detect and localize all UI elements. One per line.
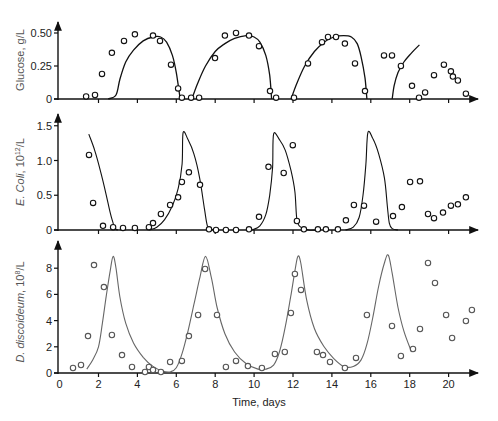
data-point <box>373 219 378 224</box>
data-point <box>179 179 184 184</box>
x-tick-label: 12 <box>287 378 299 390</box>
ecoli-y-axis-label: E. Coli, 1012/L <box>14 138 26 206</box>
data-point <box>292 271 297 276</box>
data-point <box>150 220 155 225</box>
x-tick-label: 8 <box>212 378 218 390</box>
data-point <box>416 95 421 100</box>
data-point <box>259 365 264 370</box>
data-point <box>246 227 251 232</box>
data-point <box>99 71 104 76</box>
data-point <box>158 369 163 374</box>
data-point <box>441 62 446 67</box>
data-point <box>197 182 202 187</box>
data-point <box>100 223 105 228</box>
data-point <box>90 200 95 205</box>
data-point <box>288 310 293 315</box>
x-tick-label: 18 <box>404 378 416 390</box>
data-point <box>440 210 445 215</box>
data-point <box>432 280 437 285</box>
y-tick-label: 4 <box>46 315 52 327</box>
data-point <box>425 260 430 265</box>
data-point <box>390 213 395 218</box>
x-axis-label: Time, days <box>232 396 286 408</box>
data-point <box>448 203 453 208</box>
data-point <box>85 333 90 338</box>
data-point <box>120 225 125 230</box>
dicty-y-axis-label: D. discoideum, 108/L <box>14 261 26 362</box>
model-line <box>89 134 118 230</box>
data-point <box>91 262 96 267</box>
y-tick-label: 1.0 <box>37 155 52 167</box>
y-tick-label: 0 <box>46 93 52 105</box>
data-point <box>202 266 207 271</box>
x-tick-label: 16 <box>365 378 377 390</box>
data-point <box>325 34 330 39</box>
data-point <box>273 95 278 100</box>
data-point <box>256 44 261 49</box>
x-tick-label: 14 <box>326 378 338 390</box>
y-tick-label: 0.50 <box>31 27 52 39</box>
data-point <box>422 90 427 95</box>
data-point <box>175 195 180 200</box>
model-line <box>291 36 367 99</box>
data-point <box>223 227 228 232</box>
data-point <box>398 353 403 358</box>
data-point <box>463 318 468 323</box>
data-point <box>362 88 367 93</box>
data-point <box>167 359 172 364</box>
data-point <box>389 323 394 328</box>
data-point <box>431 73 436 78</box>
data-point <box>335 227 340 232</box>
data-point <box>245 363 250 368</box>
glucose-model-curve <box>108 36 419 99</box>
data-point <box>196 95 201 100</box>
data-point <box>167 202 172 207</box>
data-point <box>175 86 180 91</box>
data-point <box>142 369 147 374</box>
data-point <box>449 335 454 340</box>
data-point <box>352 61 357 66</box>
dicty-panel: D. discoideum, 108/L 0246802468101214161… <box>14 241 478 390</box>
data-point <box>233 30 238 35</box>
y-tick-label: 0.25 <box>31 60 52 72</box>
data-point <box>281 170 286 175</box>
data-point <box>272 351 277 356</box>
data-point <box>110 225 115 230</box>
data-point <box>282 349 287 354</box>
data-point <box>233 227 238 232</box>
data-point <box>417 326 422 331</box>
data-point <box>132 32 137 37</box>
data-point <box>186 170 191 175</box>
data-point <box>101 284 106 289</box>
data-point <box>343 218 348 223</box>
data-point <box>222 33 227 38</box>
data-point <box>109 50 114 55</box>
data-point <box>150 33 155 38</box>
data-point <box>212 55 217 60</box>
data-point <box>410 346 415 351</box>
data-point <box>398 63 403 68</box>
data-point <box>150 367 155 372</box>
data-point <box>188 95 193 100</box>
data-point <box>70 365 75 370</box>
x-tick-label: 4 <box>134 378 140 390</box>
data-point <box>157 38 162 43</box>
data-point <box>223 364 228 369</box>
data-point <box>381 53 386 58</box>
glucose-y-axis-label: Glucose, g/L <box>14 29 26 91</box>
data-point <box>78 362 83 367</box>
data-point <box>305 61 310 66</box>
data-point <box>129 364 134 369</box>
data-point <box>168 62 173 67</box>
data-point <box>431 216 436 221</box>
y-tick-label: 2 <box>46 341 52 353</box>
data-point <box>301 227 306 232</box>
data-point <box>425 211 430 216</box>
data-point <box>314 349 319 354</box>
data-point <box>179 358 184 363</box>
data-point <box>443 312 448 317</box>
ecoli-experimental-points <box>86 143 468 233</box>
data-point <box>353 355 358 360</box>
data-point <box>342 365 347 370</box>
model-line <box>87 255 412 372</box>
